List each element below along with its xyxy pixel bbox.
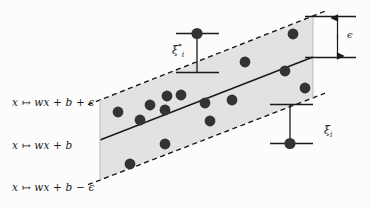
upper-boundary-label: x ↦ wx + b + ϵ [12,96,95,108]
xi-label: ξi [324,124,332,139]
data-point [135,115,146,126]
xi-subscript: i [330,130,332,139]
xi-star-label: ξ*i [172,42,184,59]
data-point [200,98,211,109]
data-point [162,91,173,102]
epsilon-label: ϵ [347,29,353,40]
slack-point-below [284,138,295,149]
xi-star-subscript: i [182,50,184,59]
data-point [145,100,156,111]
regression-line-label: x ↦ wx + b [12,139,73,151]
data-point [240,57,251,68]
data-point [300,83,311,94]
data-point [125,159,136,170]
svr-epsilon-tube-figure: x ↦ wx + b + ϵ x ↦ wx + b x ↦ wx + b − ϵ… [0,0,370,209]
data-point [176,90,187,101]
data-point [288,29,299,40]
lower-boundary-label: x ↦ wx + b − ϵ [12,181,95,193]
data-point [227,95,238,106]
data-point [280,66,291,77]
data-point [205,116,216,127]
data-point [160,105,171,116]
data-point [113,107,124,118]
slack-point-above [191,28,202,39]
data-point [160,139,171,150]
